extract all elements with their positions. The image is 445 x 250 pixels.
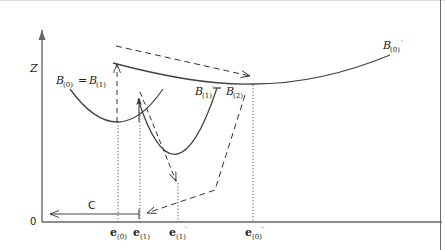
svg-text:(0): (0) [117,233,127,241]
tick-e0p: e (0) ′ [245,226,264,241]
dashed-arrow-down [140,92,176,181]
svg-text:e: e [133,226,140,239]
diagram-canvas: Z 0 C B (0) [0,0,445,250]
label-b0p: B (0) ′ [382,39,403,54]
y-axis-arrow-icon [39,30,46,40]
y-axis [39,30,46,222]
tick-e1p: e (1) ′ [169,226,187,241]
svg-text:(1): (1) [140,233,150,241]
origin-label: 0 [30,216,36,227]
diagram-frame: Z 0 C B (0) [0,0,445,250]
svg-text:(0): (0) [390,46,400,54]
label-b0-eq-b1: B (0) = B (1) [55,74,106,89]
svg-text:′: ′ [185,226,187,234]
svg-text:e: e [169,226,176,239]
curve-b0p [113,55,390,84]
dotted-guides [118,85,253,222]
svg-text:′: ′ [212,85,214,93]
svg-text:(2): (2) [233,92,243,100]
right-border [440,0,441,250]
svg-text:(1): (1) [202,92,212,100]
tick-e0: e (0) [110,226,127,241]
y-axis-label: Z [29,62,38,75]
label-b1p-b2: B (1) ′ B (2) [194,85,243,100]
top-border [0,0,445,1]
dashed-arrow-return [147,95,245,213]
svg-text:e: e [245,226,252,239]
svg-text:′: ′ [262,226,264,234]
dashed-arrow-top [116,46,250,76]
svg-text:(0): (0) [63,81,73,89]
svg-text:(1): (1) [96,81,106,89]
svg-text:(1): (1) [176,233,186,241]
svg-text:(0): (0) [252,233,262,241]
svg-text:=: = [78,74,87,87]
svg-text:′: ′ [401,39,403,47]
svg-text:e: e [110,226,117,239]
tick-e1: e (1) [133,226,150,241]
c-arrow-label: C [88,199,96,212]
